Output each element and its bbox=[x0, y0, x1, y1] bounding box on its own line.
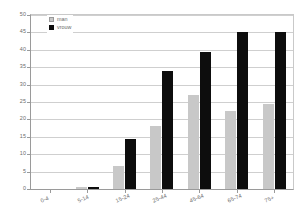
legend-item-vrouw: vrouw bbox=[49, 24, 71, 31]
y-axis-tick-label: 20 bbox=[20, 117, 26, 122]
bar-vrouw-45-64 bbox=[200, 52, 211, 189]
y-axis-tick-mark bbox=[27, 32, 30, 33]
y-axis-tick-label: 40 bbox=[20, 47, 26, 52]
bar-man-25-44 bbox=[150, 126, 161, 189]
x-axis-tick-label: 65-74 bbox=[227, 193, 243, 204]
y-axis-tick-label: 0 bbox=[23, 186, 26, 191]
bar-man-5-14 bbox=[76, 187, 87, 189]
y-axis-tick-label: 15 bbox=[20, 134, 26, 139]
bar-vrouw-15-24 bbox=[125, 139, 136, 189]
y-axis-tick-label: 50 bbox=[20, 12, 26, 17]
y-axis-tick-mark bbox=[27, 67, 30, 68]
y-axis-tick-mark bbox=[27, 50, 30, 51]
x-axis-tick-mark bbox=[50, 190, 51, 193]
bar-group bbox=[68, 15, 105, 189]
x-axis-tick-label: 75+ bbox=[264, 195, 275, 204]
bar-vrouw-5-14 bbox=[88, 187, 99, 189]
y-axis-tick-label: 25 bbox=[20, 99, 26, 104]
x-axis-tick-label: 15-24 bbox=[115, 193, 131, 204]
y-axis-tick-mark bbox=[27, 102, 30, 103]
legend-label-man: man bbox=[57, 17, 68, 22]
y-axis-tick-label: 5 bbox=[23, 169, 26, 174]
legend-swatch-man-icon bbox=[49, 17, 54, 22]
bar-man-65-74 bbox=[225, 111, 236, 189]
bar-man-45-64 bbox=[188, 95, 199, 189]
bar-man-15-24 bbox=[113, 166, 124, 189]
legend-item-man: man bbox=[49, 16, 71, 23]
y-axis-labels: 05101520253035404550 bbox=[0, 14, 26, 190]
y-axis-tick-mark bbox=[27, 15, 30, 16]
x-axis-tick-label: 25-44 bbox=[152, 193, 168, 204]
x-axis-tick-label: 5-14 bbox=[77, 195, 90, 205]
x-axis-tick-label: 45-64 bbox=[189, 193, 205, 204]
legend-label-vrouw: vrouw bbox=[57, 25, 71, 30]
y-axis-tick-label: 35 bbox=[20, 64, 26, 69]
bar-group bbox=[143, 15, 180, 189]
x-axis-tick-mark bbox=[274, 190, 275, 193]
bar-vrouw-65-74 bbox=[237, 32, 248, 189]
bar-group bbox=[256, 15, 293, 189]
y-axis-tick-mark bbox=[27, 137, 30, 138]
bar-vrouw-25-44 bbox=[162, 71, 173, 189]
bar-group bbox=[218, 15, 255, 189]
y-axis-tick-label: 45 bbox=[20, 30, 26, 35]
y-axis-tick-mark bbox=[27, 172, 30, 173]
y-axis-tick-label: 30 bbox=[20, 82, 26, 87]
x-axis-tick-label: 0-4 bbox=[40, 196, 50, 204]
y-axis-tick-mark bbox=[27, 85, 30, 86]
y-axis-tick-mark bbox=[27, 154, 30, 155]
x-axis-labels: 0-45-1415-2425-4445-6465-7475+ bbox=[30, 190, 294, 219]
y-axis-tick-label: 10 bbox=[20, 151, 26, 156]
bar-man-75+ bbox=[263, 104, 274, 189]
bar-group bbox=[106, 15, 143, 189]
bar-chart: 05101520253035404550 0-45-1415-2425-4445… bbox=[0, 0, 302, 219]
y-axis-tick-mark bbox=[27, 119, 30, 120]
bar-group bbox=[181, 15, 218, 189]
legend: man vrouw bbox=[47, 15, 73, 33]
bar-group bbox=[31, 15, 68, 189]
bar-vrouw-75+ bbox=[275, 32, 286, 189]
legend-swatch-vrouw-icon bbox=[49, 25, 54, 30]
bars-layer bbox=[31, 15, 293, 189]
